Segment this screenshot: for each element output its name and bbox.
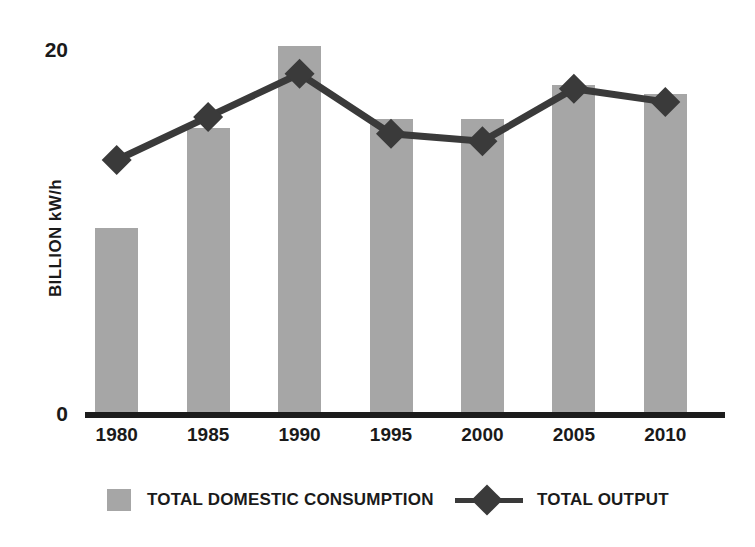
x-axis-tick-1980: 1980 bbox=[77, 424, 157, 446]
marker-1980 bbox=[102, 145, 132, 175]
x-axis-tick-2005: 2005 bbox=[534, 424, 614, 446]
x-axis-tick-1985: 1985 bbox=[168, 424, 248, 446]
bar-2005 bbox=[552, 85, 595, 415]
bar-1990 bbox=[278, 46, 321, 415]
legend-label-output: TOTAL OUTPUT bbox=[537, 490, 669, 510]
plot-area bbox=[85, 40, 725, 415]
legend-label-consumption: TOTAL DOMESTIC CONSUMPTION bbox=[147, 490, 434, 510]
legend-item-total-domestic-consumption[interactable]: TOTAL DOMESTIC CONSUMPTION bbox=[107, 485, 434, 515]
x-axis-tick-1990: 1990 bbox=[260, 424, 340, 446]
bar-2000 bbox=[461, 119, 504, 415]
bar-1980 bbox=[95, 228, 138, 416]
x-axis-tick-1995: 1995 bbox=[351, 424, 431, 446]
y-axis-title: BILLION kW/h bbox=[46, 118, 66, 358]
bar-1985 bbox=[187, 128, 230, 415]
x-axis-tick-2010: 2010 bbox=[625, 424, 705, 446]
chart-container: 20 0 BILLION kW/h 1980198519901995200020… bbox=[0, 0, 755, 547]
y-axis-tick-label-top: 20 bbox=[10, 38, 68, 62]
chart-legend: TOTAL DOMESTIC CONSUMPTION TOTAL OUTPUT bbox=[85, 485, 725, 521]
x-axis-line bbox=[85, 412, 725, 418]
bar-swatch-icon bbox=[107, 489, 131, 511]
legend-item-total-output[interactable]: TOTAL OUTPUT bbox=[455, 485, 669, 515]
line-marker-swatch-icon bbox=[455, 489, 523, 511]
bar-1995 bbox=[370, 119, 413, 415]
x-axis-tick-2000: 2000 bbox=[442, 424, 522, 446]
y-axis-tick-label-zero: 0 bbox=[10, 402, 68, 426]
bar-2010 bbox=[644, 94, 687, 415]
